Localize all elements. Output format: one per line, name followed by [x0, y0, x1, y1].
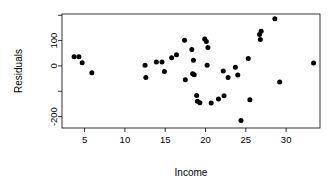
data-point	[247, 97, 252, 102]
data-point	[143, 63, 148, 68]
x-tick-label: 25	[241, 134, 252, 145]
x-tick-label: 15	[160, 134, 171, 145]
data-point	[259, 29, 264, 34]
data-point	[154, 59, 159, 64]
data-point	[233, 65, 238, 70]
x-tick-label: 5	[82, 134, 87, 145]
x-axis-title: Income	[175, 167, 208, 178]
data-point	[221, 69, 226, 74]
x-axis-ticks	[85, 128, 287, 132]
y-tick-label: -200	[48, 107, 59, 126]
data-point	[174, 52, 179, 57]
data-point	[89, 70, 94, 75]
data-point	[191, 58, 196, 63]
data-point	[162, 69, 167, 74]
data-point	[209, 100, 214, 105]
data-point	[204, 39, 209, 44]
x-tick-label: 10	[120, 134, 131, 145]
data-point	[192, 72, 197, 77]
data-point	[205, 45, 210, 50]
data-point	[194, 93, 199, 98]
y-axis-ticks	[58, 15, 62, 116]
y-tick-label: 0	[48, 63, 59, 68]
y-axis-title: Residuals	[13, 49, 24, 93]
y-axis-tick-labels: -2000100	[48, 33, 59, 126]
data-point	[272, 16, 277, 21]
data-point	[235, 73, 240, 78]
data-point	[226, 75, 231, 80]
y-tick-label: 100	[48, 33, 59, 49]
data-point	[182, 38, 187, 43]
data-point	[205, 63, 210, 68]
data-point	[246, 56, 251, 61]
data-point	[216, 97, 221, 102]
data-point	[159, 59, 164, 64]
data-point-group	[72, 16, 316, 123]
data-point	[183, 77, 188, 82]
data-point	[72, 54, 77, 59]
data-point	[258, 37, 263, 42]
data-point	[76, 54, 81, 59]
plot-frame	[62, 14, 320, 128]
data-point	[277, 79, 282, 84]
x-tick-label: 20	[200, 134, 211, 145]
data-point	[197, 100, 202, 105]
data-point	[80, 60, 85, 65]
data-point	[222, 93, 227, 98]
plot-canvas: -2000100 51015202530 Residuals Income	[0, 0, 334, 185]
data-point	[169, 55, 174, 60]
data-point	[143, 75, 148, 80]
data-point	[189, 47, 194, 52]
data-point	[311, 60, 316, 65]
x-axis-tick-labels: 51015202530	[82, 134, 292, 145]
scatter-plot-figure: -2000100 51015202530 Residuals Income	[0, 0, 334, 185]
data-point	[238, 118, 243, 123]
x-tick-label: 30	[281, 134, 292, 145]
